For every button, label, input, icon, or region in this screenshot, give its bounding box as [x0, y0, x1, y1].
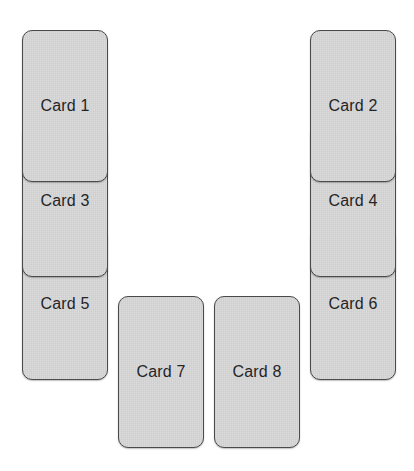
card-7[interactable]: Card 7 — [118, 296, 204, 448]
card-1[interactable]: Card 1 — [22, 30, 108, 182]
card-5-label: Card 5 — [40, 295, 89, 313]
card-8[interactable]: Card 8 — [214, 296, 300, 448]
card-3-label: Card 3 — [40, 192, 89, 210]
card-1-label: Card 1 — [40, 97, 89, 115]
card-2-label: Card 2 — [328, 97, 377, 115]
card-2[interactable]: Card 2 — [310, 30, 396, 182]
card-4-label: Card 4 — [328, 192, 377, 210]
card-8-label: Card 8 — [232, 363, 281, 381]
card-6-label: Card 6 — [328, 295, 377, 313]
card-7-label: Card 7 — [136, 363, 185, 381]
